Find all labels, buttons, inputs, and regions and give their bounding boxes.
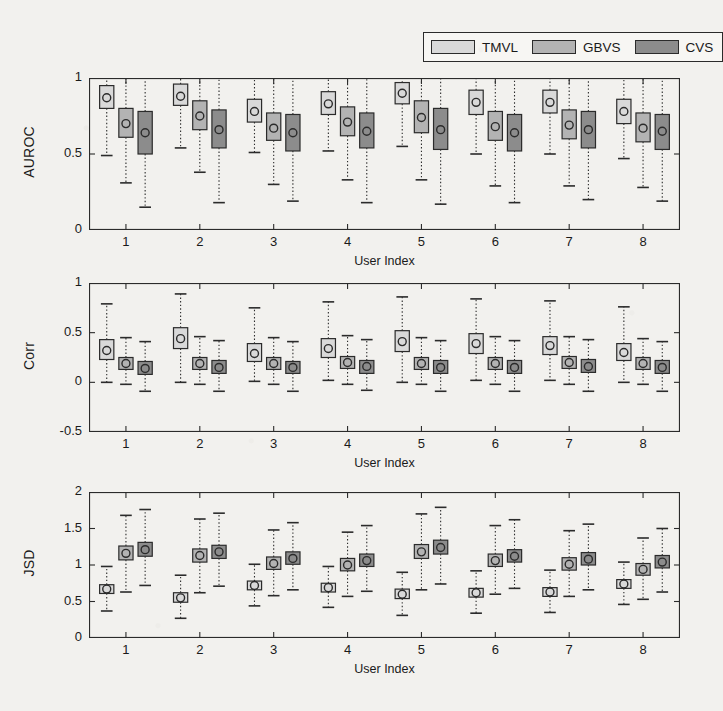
panel-jsd	[89, 492, 680, 638]
xtick-label-jsd-8: 8	[628, 642, 658, 657]
xtick-label-auroc-3: 3	[259, 234, 289, 249]
boxplot-gbvs-user1	[119, 78, 133, 183]
xtick-label-jsd-2: 2	[185, 642, 215, 657]
xtick-label-corr-1: 1	[111, 436, 141, 451]
boxplot-gbvs-user5	[414, 78, 428, 180]
boxplot-cvs-user5	[434, 78, 448, 204]
boxplot-tmvl-user5	[395, 297, 409, 382]
boxplot-tmvl-user3	[247, 78, 261, 152]
ytick-label-corr-3: 1	[27, 274, 82, 289]
boxplot-gbvs-user3	[267, 338, 281, 385]
boxplot-gbvs-user2	[193, 78, 207, 172]
boxplot-gbvs-user1	[119, 515, 133, 592]
xtick-label-auroc-5: 5	[406, 234, 436, 249]
boxplot-gbvs-user4	[340, 532, 354, 596]
boxplot-gbvs-user6	[488, 78, 502, 186]
boxplot-tmvl-user4	[321, 566, 335, 607]
xtick-label-jsd-4: 4	[333, 642, 363, 657]
boxplot-tmvl-user1	[100, 566, 114, 611]
boxplot-cvs-user4	[360, 340, 374, 391]
ytick-label-auroc-0: 0	[27, 221, 82, 236]
boxplot-cvs-user3	[286, 342, 300, 392]
boxplot-gbvs-user5	[414, 514, 428, 590]
boxplot-tmvl-user6	[469, 571, 483, 613]
legend-entry-cvs[interactable]: CVS	[635, 40, 716, 55]
panel-corr	[89, 283, 680, 432]
boxplot-tmvl-user5	[395, 572, 409, 615]
boxplot-cvs-user1	[138, 78, 152, 207]
boxplot-gbvs-user8	[636, 339, 650, 385]
xtick-label-jsd-5: 5	[406, 642, 436, 657]
boxplot-gbvs-user7	[562, 337, 576, 385]
legend-entry-tmvl[interactable]: TMVL	[431, 40, 532, 55]
boxplot-cvs-user1	[138, 510, 152, 586]
boxplot-tmvl-user1	[100, 78, 114, 156]
xtick-label-corr-6: 6	[480, 436, 510, 451]
yaxis-label-corr: Corr	[21, 296, 37, 416]
boxplot-cvs-user1	[138, 342, 152, 392]
boxplot-tmvl-user4	[321, 78, 335, 151]
ytick-label-jsd-0: 0	[27, 629, 82, 644]
legend-label-tmvl: TMVL	[482, 40, 518, 55]
boxplot-tmvl-user7	[543, 570, 557, 612]
xaxis-label-jsd: User Index	[89, 662, 680, 676]
boxplot-tmvl-user3	[247, 564, 261, 606]
xtick-label-corr-8: 8	[628, 436, 658, 451]
boxplot-cvs-user7	[581, 78, 595, 200]
boxplot-tmvl-user5	[395, 78, 409, 146]
boxplot-cvs-user2	[212, 341, 226, 392]
xtick-label-auroc-6: 6	[480, 234, 510, 249]
boxplot-cvs-user6	[507, 341, 521, 392]
boxplot-gbvs-user6	[488, 337, 502, 385]
yaxis-label-jsd: JSD	[21, 503, 37, 623]
legend-label-cvs: CVS	[686, 40, 714, 55]
legend-entry-gbvs[interactable]: GBVS	[532, 40, 635, 55]
yaxis-label-auroc: AUROC	[21, 92, 37, 212]
xtick-label-corr-5: 5	[406, 436, 436, 451]
boxplot-tmvl-user2	[173, 294, 187, 382]
boxplot-gbvs-user4	[340, 336, 354, 385]
boxplot-gbvs-user8	[636, 538, 650, 599]
boxplot-gbvs-user3	[267, 530, 281, 596]
boxplot-tmvl-user8	[617, 307, 631, 382]
xtick-label-jsd-7: 7	[554, 642, 584, 657]
xaxis-label-corr: User Index	[89, 456, 680, 470]
boxplot-tmvl-user4	[321, 302, 335, 380]
boxplot-gbvs-user4	[340, 78, 354, 180]
xtick-label-jsd-3: 3	[259, 642, 289, 657]
xtick-label-auroc-1: 1	[111, 234, 141, 249]
xtick-label-corr-2: 2	[185, 436, 215, 451]
xaxis-label-auroc: User Index	[89, 254, 680, 268]
xtick-label-jsd-1: 1	[111, 642, 141, 657]
boxplot-tmvl-user2	[173, 78, 187, 148]
boxplot-cvs-user2	[212, 513, 226, 586]
boxplot-cvs-user6	[507, 520, 521, 589]
xtick-label-corr-4: 4	[333, 436, 363, 451]
boxplot-gbvs-user2	[193, 337, 207, 385]
boxplot-tmvl-user8	[617, 562, 631, 604]
boxplot-cvs-user6	[507, 78, 521, 203]
boxplot-cvs-user4	[360, 78, 374, 203]
boxplot-tmvl-user1	[100, 304, 114, 382]
xtick-label-jsd-6: 6	[480, 642, 510, 657]
xtick-label-auroc-2: 2	[185, 234, 215, 249]
xtick-label-auroc-8: 8	[628, 234, 658, 249]
boxplot-cvs-user7	[581, 524, 595, 590]
xtick-label-corr-3: 3	[259, 436, 289, 451]
boxplot-tmvl-user3	[247, 308, 261, 382]
ytick-label-auroc-2: 1	[27, 69, 82, 84]
boxplot-tmvl-user7	[543, 301, 557, 380]
boxplot-gbvs-user5	[414, 338, 428, 385]
boxplot-cvs-user7	[581, 340, 595, 392]
boxplot-gbvs-user3	[267, 78, 281, 184]
boxplot-tmvl-user7	[543, 78, 557, 154]
boxplot-cvs-user4	[360, 526, 374, 592]
legend: TMVLGBVSCVS	[423, 32, 723, 62]
xtick-label-corr-7: 7	[554, 436, 584, 451]
boxplot-gbvs-user7	[562, 531, 576, 597]
legend-swatch-tmvl	[431, 40, 475, 54]
ytick-label-corr-0: -0.5	[27, 423, 82, 438]
boxplot-tmvl-user2	[173, 575, 187, 618]
boxplot-tmvl-user8	[617, 78, 631, 159]
boxplot-cvs-user5	[434, 507, 448, 584]
